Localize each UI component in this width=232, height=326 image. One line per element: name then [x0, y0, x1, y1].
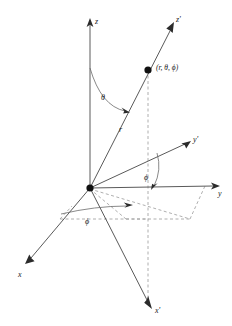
dashed-plane-edge-right-up [190, 186, 205, 219]
spherical-coordinates-figure: z y x z' y' x' θ r ϕ ϕ (r, θ, ϕ) [0, 0, 232, 326]
axis-labels-group: z y x z' y' x' [17, 15, 222, 315]
theta-arc [90, 68, 125, 111]
label-z: z [94, 17, 99, 26]
axis-x-prime-line [90, 188, 147, 300]
dashed-plane-edge-upper-right [90, 189, 190, 219]
quantity-labels-group: θ r ϕ ϕ (r, θ, ϕ) [85, 63, 179, 226]
label-point-coordinates: (r, θ, ϕ) [156, 63, 179, 72]
axis-y-prime-line [90, 144, 185, 188]
axis-z-prime-line [90, 31, 170, 188]
unprimed-axes-group [25, 18, 220, 264]
figure-canvas: z y x z' y' x' θ r ϕ ϕ (r, θ, ϕ) [0, 0, 232, 326]
label-r: r [119, 125, 123, 134]
origin-dot [86, 184, 93, 191]
label-theta: θ [101, 93, 105, 102]
label-y-prime: y' [192, 135, 199, 144]
axis-x-prime-arrowhead [144, 296, 152, 309]
dashed-projection-foot [90, 189, 126, 219]
label-phi-upper: ϕ [144, 173, 148, 182]
label-x: x [17, 270, 22, 279]
label-phi-lower: ϕ [85, 217, 89, 226]
phi-lower-arc-arrowhead [124, 202, 133, 207]
label-x-prime: x' [154, 306, 161, 315]
axis-x-line [31, 188, 90, 258]
label-z-prime: z' [175, 15, 181, 24]
angle-arcs-group [61, 68, 159, 214]
label-y: y [217, 189, 222, 198]
point-r-theta-phi-dot [144, 66, 151, 73]
